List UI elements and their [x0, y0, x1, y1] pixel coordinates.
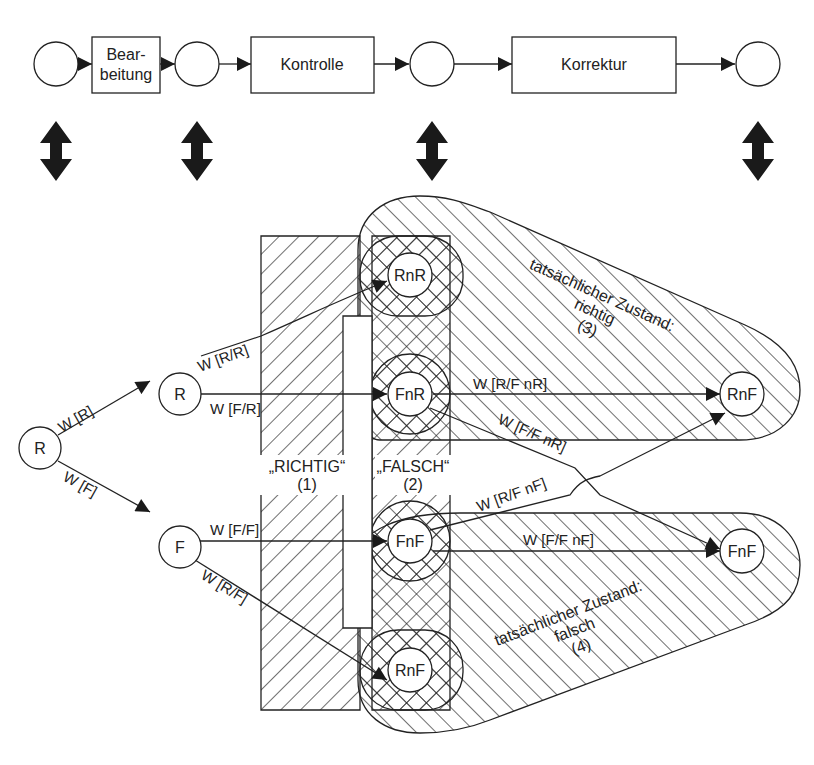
double-arrow-vertical-icon	[40, 121, 72, 181]
area-richtig-label: „RICHTIG“	[269, 458, 345, 475]
node-root-label: R	[34, 440, 46, 457]
node-fnr-label: FnR	[395, 386, 425, 403]
edge-label-w-r: W [R]	[55, 402, 96, 435]
diagram-canvas: Bear- beitung Kontrolle Korrektur	[0, 0, 814, 765]
node-rnf-right-label: RnF	[727, 386, 757, 403]
process-chain	[34, 37, 780, 93]
node-r-label: R	[174, 386, 186, 403]
node-f-label: F	[175, 539, 185, 556]
edge-label-w-rf-nr: W [R/F nR]	[473, 375, 547, 392]
edge-label-w-ff: W [F/F]	[210, 521, 259, 538]
area-falsch-label: „FALSCH“	[377, 458, 450, 475]
area-falsch-number: (2)	[403, 476, 423, 493]
area-richtig-number: (1)	[297, 476, 317, 493]
mapping-arrows	[40, 121, 774, 181]
double-arrow-vertical-icon	[742, 121, 774, 181]
edge-label-w-fr: W [F/R]	[210, 400, 261, 417]
node-fnf-right-label: FnF	[728, 543, 757, 560]
event-end	[736, 42, 780, 86]
edge-label-w-f: W [F]	[61, 468, 101, 500]
edge-label-w-rf: W [R/F]	[198, 566, 250, 607]
node-fnf-label: FnF	[396, 533, 425, 550]
activity-bearbeitung-label-2: beitung	[100, 66, 153, 83]
node-rnf-bottom-label: RnF	[395, 662, 425, 679]
node-rnr-label: RnR	[394, 267, 426, 284]
double-arrow-vertical-icon	[416, 121, 448, 181]
double-arrow-vertical-icon	[181, 121, 213, 181]
edge-label-w-rr: W [R/R]	[195, 341, 250, 375]
activity-kontrolle-label: Kontrolle	[280, 56, 343, 73]
activity-bearbeitung-label-1: Bear-	[106, 46, 145, 63]
edge-label-w-ff-nf: W [F/F nF]	[523, 531, 594, 548]
event-start	[34, 42, 78, 86]
event-after-kontrolle	[410, 42, 454, 86]
event-after-bearbeitung	[175, 42, 219, 86]
activity-korrektur-label: Korrektur	[561, 56, 627, 73]
edge-label-w-rf-nf: W [R/F nF]	[474, 474, 548, 515]
